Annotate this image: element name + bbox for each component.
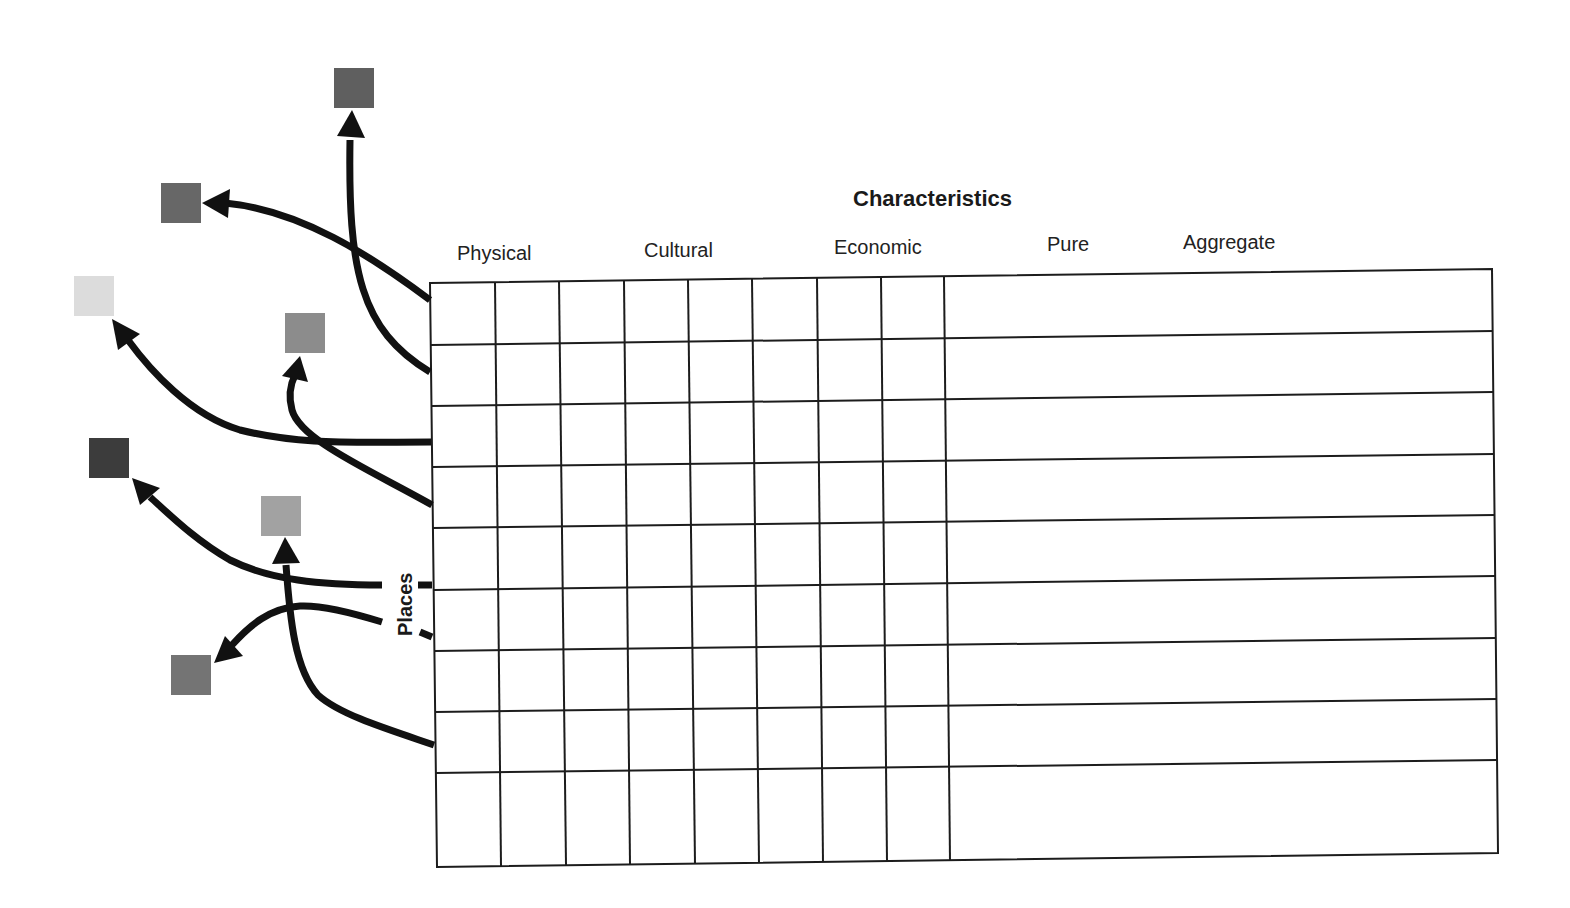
- row-line: [433, 454, 1494, 467]
- column-line: [817, 278, 823, 862]
- places-characteristics-diagram: Characteristics Physical Cultural Econom…: [0, 0, 1570, 908]
- column-headers: Physical Cultural Economic Pure Aggregat…: [457, 231, 1275, 264]
- arrow-head-icon: [272, 537, 300, 564]
- characteristics-grid: [430, 269, 1498, 867]
- header-cultural: Cultural: [644, 239, 713, 261]
- arrow-head-icon: [202, 189, 230, 218]
- header-physical: Physical: [457, 242, 531, 264]
- column-line: [752, 279, 759, 863]
- arrow-row6-stub: [420, 632, 432, 637]
- column-line: [559, 281, 566, 865]
- arrows: [112, 110, 434, 745]
- column-line: [944, 277, 950, 860]
- square-upper-left: [161, 183, 201, 223]
- column-line: [881, 277, 887, 861]
- diagram-title: Characteristics: [853, 186, 1012, 211]
- square-top: [334, 68, 374, 108]
- column-line: [495, 282, 501, 866]
- row-line: [434, 576, 1495, 590]
- square-middle: [285, 313, 325, 353]
- row-line: [435, 699, 1497, 712]
- row-line: [435, 638, 1496, 651]
- row-line: [436, 760, 1497, 773]
- column-line: [688, 280, 695, 864]
- column-line: [624, 281, 630, 864]
- row-line: [433, 515, 1495, 528]
- row-line: [431, 331, 1493, 345]
- square-bottom: [171, 655, 211, 695]
- arrow-head-icon: [337, 110, 365, 138]
- header-pure: Pure: [1047, 233, 1089, 255]
- header-aggregate: Aggregate: [1183, 231, 1275, 253]
- square-dark: [89, 438, 129, 478]
- grid-border: [430, 269, 1498, 867]
- arrow-row6: [232, 606, 382, 645]
- place-squares: [74, 68, 374, 695]
- arrow-head-icon: [282, 356, 308, 382]
- square-center-light: [261, 496, 301, 536]
- places-label: Places: [394, 573, 416, 636]
- arrow-row3: [128, 340, 431, 442]
- arrow-row1: [225, 203, 430, 300]
- square-light: [74, 276, 114, 316]
- header-economic: Economic: [834, 236, 922, 258]
- row-line: [432, 392, 1493, 406]
